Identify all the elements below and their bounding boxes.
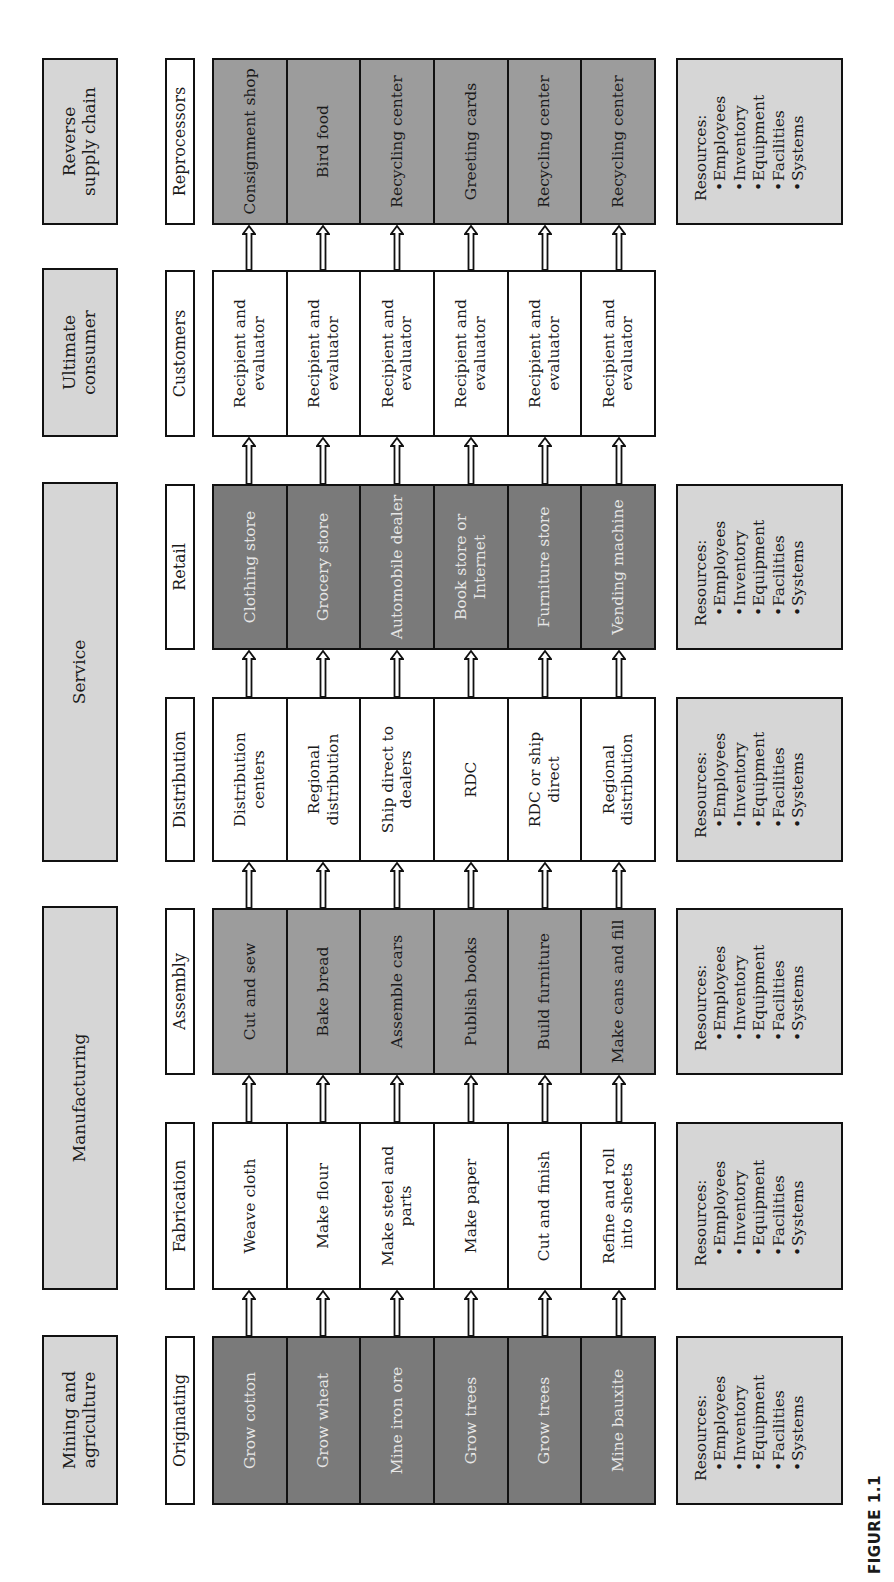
process-cell: Mine iron ore [359,1338,433,1503]
flow-arrow-icon [242,650,256,697]
resource-item: Inventory [731,1124,750,1256]
resource-item: Facilities [770,699,789,828]
flow-arrow-icon [538,437,552,484]
process-cell: Recipient and evaluator [507,272,581,435]
resources-box-originating: Resources:EmployeesInventoryEquipmentFac… [676,1336,843,1505]
process-cell: Recycling center [580,60,654,223]
resources-box-reprocessors: Resources:EmployeesInventoryEquipmentFac… [676,58,843,225]
resource-item: Systems [789,910,808,1041]
stage-column-retail: Clothing storeGrocery storeAutomobile de… [212,484,656,650]
resource-item-label: Systems [789,541,807,606]
resource-item-label: Employees [711,1161,729,1246]
flow-arrow-icon [390,437,404,484]
resource-item: Employees [711,1338,730,1471]
resource-item-label: Equipment [750,520,768,606]
flow-arrow-icon [242,437,256,484]
resource-item-label: Employees [711,1376,729,1461]
flow-arrow-icon [464,650,478,697]
flow-arrow-icon [612,437,626,484]
flow-arrow-icon [538,225,552,270]
flow-arrow-icon [390,862,404,908]
figure-label: FIGURE 1.1 [866,1475,884,1574]
resource-item: Systems [789,699,808,828]
resources-title: Resources: [692,486,711,626]
stage-column-reprocessors: Consignment shopBird foodRecycling cente… [212,58,656,225]
resource-item-label: Equipment [750,1160,768,1246]
process-cell: Bake bread [286,910,360,1073]
flow-arrow-icon [242,862,256,908]
process-cell: Ship direct to dealers [359,699,433,860]
process-cell: Make cans and fill [580,910,654,1073]
resource-item: Equipment [750,60,769,191]
flow-arrow-icon [464,862,478,908]
resource-item: Equipment [750,1338,769,1471]
stage-label-originating: Originating [165,1336,195,1505]
resource-item: Inventory [731,910,750,1041]
flow-arrow-icon [316,437,330,484]
flow-arrow-icon [612,862,626,908]
stage-column-assembly: Cut and sewBake breadAssemble carsPublis… [212,908,656,1075]
resource-item-label: Inventory [731,742,749,818]
resources-box-retail: Resources:EmployeesInventoryEquipmentFac… [676,484,843,650]
stage-column-distribution: Distribution centersRegional distributio… [212,697,656,862]
resources-title: Resources: [692,60,711,201]
sector-header-service: Service [42,482,118,862]
flow-arrow-icon [612,1290,626,1336]
resource-item: Employees [711,910,730,1041]
flow-arrow-icon [464,1290,478,1336]
resource-item-label: Employees [711,733,729,818]
process-cell: Regional distribution [580,699,654,860]
stage-label-distribution: Distribution [165,697,195,862]
process-cell: Build furniture [507,910,581,1073]
flow-arrow-icon [612,1075,626,1122]
resource-item: Equipment [750,1124,769,1256]
process-cell: Make steel and parts [359,1124,433,1288]
resource-item-label: Inventory [731,1385,749,1461]
resources-title: Resources: [692,699,711,838]
flow-arrow-icon [464,225,478,270]
process-cell: Recipient and evaluator [359,272,433,435]
supply-chain-diagram: Mining and agricultureManufacturingServi… [0,0,894,1582]
resource-item: Facilities [770,60,789,191]
process-cell: Book store or Internet [433,486,507,648]
resource-item-label: Facilities [770,110,788,181]
flow-arrow-icon [316,1290,330,1336]
process-cell: RDC [433,699,507,860]
resource-item-label: Facilities [770,1175,788,1246]
resource-item: Employees [711,486,730,616]
process-cell: Grow cotton [214,1338,286,1503]
resource-item-label: Equipment [750,95,768,181]
stage-column-fabrication: Weave clothMake flourMake steel and part… [212,1122,656,1290]
process-cell: Grow wheat [286,1338,360,1503]
resource-item-label: Systems [789,1396,807,1461]
flow-arrow-icon [316,650,330,697]
resources-list: EmployeesInventoryEquipmentFacilitiesSys… [711,1338,808,1481]
flow-arrow-icon [612,650,626,697]
process-cell: RDC or ship direct [507,699,581,860]
process-cell: Regional distribution [286,699,360,860]
resource-item: Facilities [770,910,789,1041]
resource-item-label: Equipment [750,732,768,818]
resource-item: Employees [711,699,730,828]
resource-item-label: Systems [789,116,807,181]
flow-arrow-icon [538,1075,552,1122]
process-cell: Recipient and evaluator [286,272,360,435]
sector-header-reverse-supply-chain: Reverse supply chain [42,58,118,225]
stage-label-retail: Retail [165,484,195,650]
stage-column-originating: Grow cottonGrow wheatMine iron oreGrow t… [212,1336,656,1505]
process-cell: Vending machine [580,486,654,648]
process-cell: Greeting cards [433,60,507,223]
process-cell: Consignment shop [214,60,286,223]
flow-arrow-icon [242,1075,256,1122]
flow-arrow-icon [538,650,552,697]
process-cell: Recycling center [359,60,433,223]
flow-arrow-icon [612,225,626,270]
process-cell: Publish books [433,910,507,1073]
flow-arrow-icon [464,437,478,484]
process-cell: Recipient and evaluator [433,272,507,435]
resource-item: Systems [789,1124,808,1256]
flow-arrow-icon [390,1075,404,1122]
stage-label-assembly: Assembly [165,908,195,1075]
resource-item: Facilities [770,486,789,616]
process-cell: Grow trees [433,1338,507,1503]
